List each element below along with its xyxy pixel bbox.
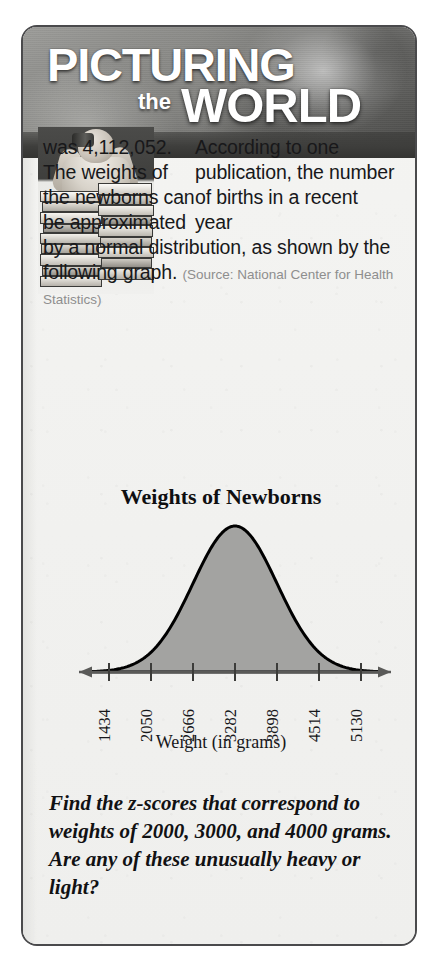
axis-arrow-right <box>378 667 391 678</box>
picturing-the-world-sidebar: PICTURING the WORLD <box>0 0 443 974</box>
body-lead-paragraph: According to one publication, the number… <box>195 135 399 235</box>
normal-curve-path <box>88 526 382 672</box>
banner-word-world: WORLD <box>181 81 361 130</box>
x-axis-tick-labels: 1434205026663282389845145130 <box>31 680 411 738</box>
banner-word-the: the <box>138 91 171 113</box>
normal-distribution-chart: Weights of Newborns 14342050266632823898… <box>31 484 411 759</box>
body-text: According to one publication, the number… <box>43 135 399 310</box>
bell-curve-graphic <box>31 512 411 687</box>
chart-title: Weights of Newborns <box>31 484 411 510</box>
axis-arrow-left <box>79 667 92 678</box>
x-axis-caption: Weight (in grams) <box>31 732 411 753</box>
exercise-question: Find the z-scores that correspond to wei… <box>49 789 397 901</box>
feature-box: PICTURING the WORLD <box>21 25 417 946</box>
